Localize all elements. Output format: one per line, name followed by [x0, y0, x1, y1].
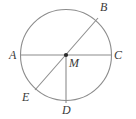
point-label-E: E: [22, 91, 29, 103]
point-label-M: M: [69, 57, 79, 69]
circle-diagram: A B C D E M: [0, 0, 136, 119]
center-point-dot: [64, 53, 68, 57]
point-label-B: B: [100, 1, 107, 13]
point-label-C: C: [114, 49, 122, 61]
point-label-A: A: [9, 49, 16, 61]
point-label-D: D: [62, 104, 71, 116]
